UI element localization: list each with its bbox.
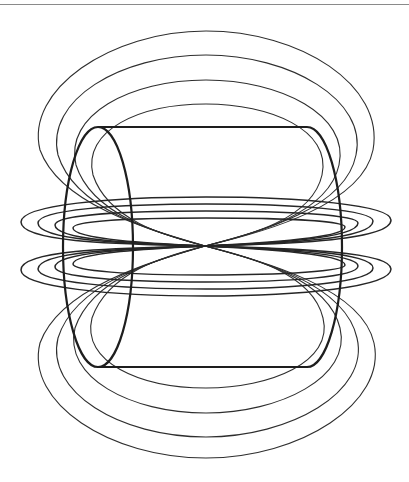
top-field-loops [38,31,374,246]
top-loop-3 [75,80,341,246]
lower-horizontal-loops [21,246,391,296]
cylinder-left-end [63,127,133,367]
upper-horizontal-loops [21,197,391,246]
top-loop-1 [38,31,374,246]
field-lines-diagram [0,0,409,482]
